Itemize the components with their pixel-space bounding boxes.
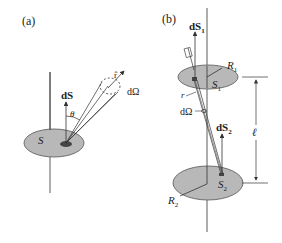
patch-ds2: [219, 173, 224, 176]
label-r: r: [181, 90, 185, 100]
disk-s: [24, 129, 84, 157]
label-r2: R2: [167, 194, 179, 209]
diagram-canvas: S dS θ r̂ dΩ: [0, 0, 282, 243]
panel-b: dS1 R1 S1 r dΩ dS2 ℓ S2 R2: [167, 8, 268, 232]
label-domega-a: dΩ: [127, 86, 139, 97]
label-ds1: dS1: [189, 20, 205, 35]
label-domega-b: dΩ: [180, 106, 192, 117]
label-s: S: [38, 134, 44, 146]
label-ell: ℓ: [252, 126, 257, 138]
label-theta: θ: [70, 109, 75, 119]
patch-ds1: [192, 77, 197, 81]
label-ds2: dS2: [216, 121, 232, 136]
disk-s2: [173, 166, 243, 200]
label-ds: dS: [61, 89, 73, 101]
panel-a: S dS θ r̂ dΩ: [24, 70, 139, 193]
